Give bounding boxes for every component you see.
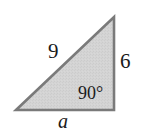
right-triangle-figure: 9 6 90° a: [0, 0, 144, 135]
right-angle-measure-label: 90°: [78, 84, 103, 102]
vertical-side-length-label: 6: [120, 51, 131, 72]
base-length-label: a: [58, 111, 68, 131]
hypotenuse-length-label: 9: [48, 41, 59, 62]
